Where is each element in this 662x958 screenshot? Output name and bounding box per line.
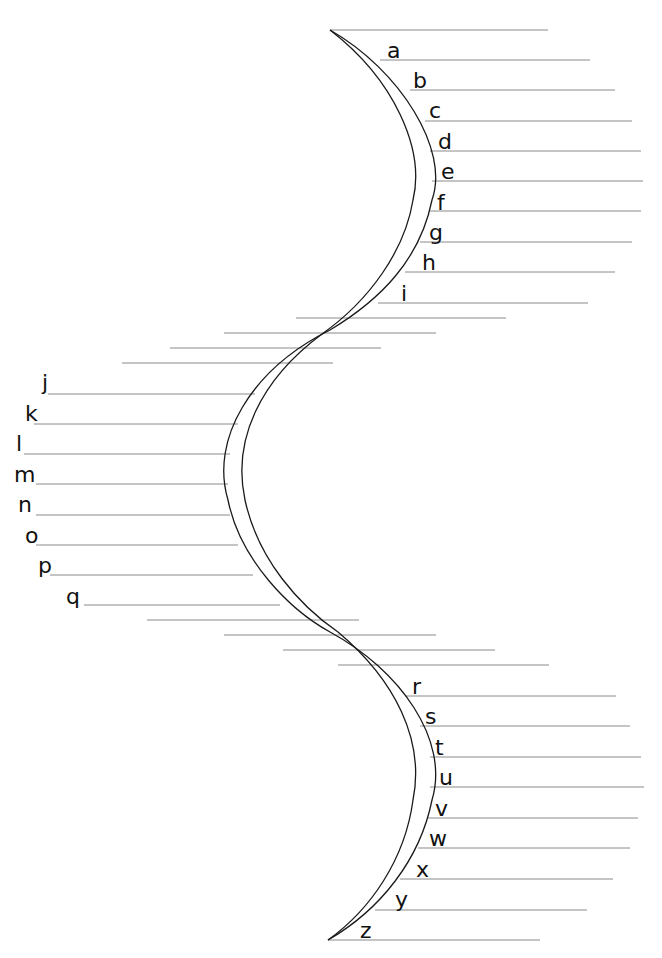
letter-d: d <box>438 131 452 153</box>
letter-x: x <box>416 859 429 881</box>
letter-i: i <box>401 283 407 305</box>
letter-y: y <box>395 889 408 911</box>
letter-v: v <box>435 798 448 820</box>
letter-a: a <box>387 40 400 62</box>
letter-l: l <box>16 433 22 455</box>
letter-o: o <box>25 525 38 547</box>
letter-j: j <box>42 372 48 394</box>
letter-r: r <box>412 676 421 698</box>
letter-q: q <box>66 586 80 608</box>
curve-inner-mid <box>242 334 338 632</box>
letter-c: c <box>429 100 441 122</box>
writing-rules <box>24 30 644 940</box>
letter-u: u <box>439 767 453 789</box>
letter-k: k <box>25 403 38 425</box>
letter-f: f <box>437 192 445 214</box>
letter-z: z <box>360 920 372 942</box>
letter-m: m <box>14 464 35 486</box>
letter-w: w <box>429 828 447 850</box>
letter-e: e <box>441 161 455 183</box>
letter-g: g <box>429 222 443 244</box>
letter-n: n <box>18 494 32 516</box>
curve-outer-mid <box>224 330 330 632</box>
letter-s: s <box>425 706 436 728</box>
letter-p: p <box>38 555 52 577</box>
letter-t: t <box>435 737 444 759</box>
letter-b: b <box>413 70 427 92</box>
worksheet: abcdefghijklmnopqrstuvwxyz <box>0 0 662 958</box>
s-curve-ribbon <box>224 30 436 940</box>
letter-h: h <box>422 252 436 274</box>
s-curve-drawing <box>0 0 662 958</box>
